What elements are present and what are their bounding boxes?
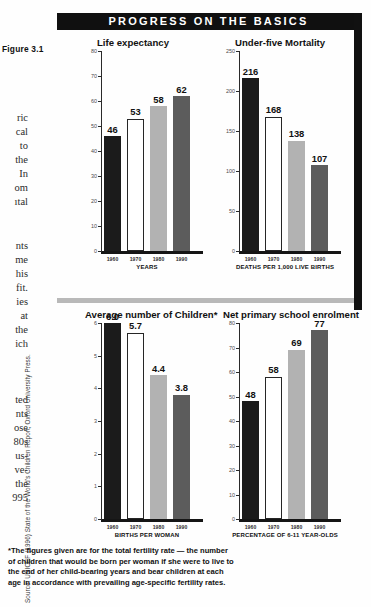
x-axis-category-label: 1990 [176, 256, 188, 262]
bar-1960 [104, 323, 121, 519]
x-axis-baseline [239, 519, 341, 522]
y-axis-tick-label: 50 [229, 208, 235, 214]
y-axis-tick-label: 0 [94, 516, 97, 522]
y-axis-tick-label: 0 [94, 248, 97, 254]
footnote-line: of children that would be born per woman… [8, 557, 298, 568]
figure-label: Figure 3.1 [2, 44, 44, 54]
figure-right-rule [354, 13, 362, 310]
y-axis-tick-label: 1 [94, 483, 97, 489]
y-axis-tick-label: 2 [94, 451, 97, 457]
bar-1970 [127, 333, 144, 519]
y-axis-tick [98, 51, 102, 52]
x-axis-caption: PERCENTAGE OF 6-11 YEAR-OLDS [232, 532, 338, 538]
bar-value-label: 69 [291, 337, 301, 348]
body-text-fragment: fit. [16, 282, 28, 293]
x-axis-category-label: 1990 [314, 524, 326, 530]
y-axis-tick-label: 50 [91, 123, 97, 129]
chart-title: Life expectancy [97, 37, 253, 48]
y-axis-tick [98, 519, 102, 520]
figure-footnote: *The figures given are for the total fer… [8, 546, 298, 588]
body-text-fragment: at [20, 310, 28, 321]
bar-value-label: 77 [314, 318, 324, 329]
y-axis-tick-label: 6 [94, 320, 97, 326]
x-axis-category-label: 1970 [268, 524, 280, 530]
x-axis-category-label: 1970 [268, 256, 280, 262]
y-axis-tick [236, 397, 240, 398]
y-axis-tick [98, 76, 102, 77]
plot-area: 0102030405060708048196058197069198077199… [239, 323, 331, 519]
y-axis-tick [98, 356, 102, 357]
y-axis-tick [236, 470, 240, 471]
y-axis-tick-label: 200 [226, 88, 235, 94]
body-text-fragment: cal [16, 126, 28, 137]
x-axis-caption: BIRTHS PER WOMAN [115, 532, 179, 538]
bar-value-label: 46 [107, 124, 117, 135]
plot-area: 0501001502002502161960168197013819801071… [239, 51, 331, 251]
body-text-fragment: the [15, 324, 28, 335]
y-axis-tick [98, 486, 102, 487]
y-axis-tick [98, 251, 102, 252]
y-axis-tick-label: 0 [232, 516, 235, 522]
bar-1990 [173, 395, 190, 519]
y-axis-tick-label: 10 [229, 492, 235, 498]
y-axis-tick [98, 176, 102, 177]
bar-value-label: 6.0 [106, 311, 119, 322]
bar-1960 [104, 136, 121, 251]
y-axis-tick-label: 40 [229, 418, 235, 424]
y-axis-tick-label: 80 [229, 320, 235, 326]
figure-middle-separator [57, 298, 354, 303]
body-text-fragment: ich [15, 338, 28, 349]
y-axis-tick [236, 251, 240, 252]
y-axis-tick [98, 454, 102, 455]
bar-value-label: 58 [153, 94, 163, 105]
body-text-fragment: In [19, 168, 28, 179]
bar-value-label: 5.7 [129, 320, 142, 331]
y-axis-line [239, 51, 240, 251]
body-text-fragment: to [20, 140, 28, 151]
y-axis-tick [236, 495, 240, 496]
y-axis-tick [236, 51, 240, 52]
x-axis-category-label: 1980 [153, 524, 165, 530]
y-axis-tick-label: 0 [232, 248, 235, 254]
bar-value-label: 168 [266, 104, 282, 115]
y-axis-tick-label: 5 [94, 353, 97, 359]
bar-1980 [288, 141, 305, 251]
bar-value-label: 62 [176, 84, 186, 95]
y-axis-tick-label: 40 [91, 148, 97, 154]
bar-value-label: 53 [130, 106, 140, 117]
bar-value-label: 216 [243, 66, 259, 77]
y-axis-tick [236, 211, 240, 212]
y-axis-tick-label: 250 [226, 48, 235, 54]
bar-value-label: 58 [268, 364, 278, 375]
body-text-fragment: ies [16, 296, 28, 307]
chart-title: Under-five Mortality [235, 37, 371, 48]
x-axis-category-label: 1990 [314, 256, 326, 262]
x-axis-caption: YEARS [136, 264, 157, 270]
bar-1990 [311, 165, 328, 251]
x-axis-category-label: 1970 [130, 256, 142, 262]
y-axis-tick-label: 4 [94, 385, 97, 391]
bar-value-label: 107 [312, 153, 328, 164]
y-axis-tick-label: 150 [226, 128, 235, 134]
bar-1990 [173, 96, 190, 251]
bar-1980 [150, 106, 167, 251]
footnote-line: age in accordance with prevailing age-sp… [8, 578, 298, 589]
footnote-line: *The figures given are for the total fer… [8, 546, 298, 557]
y-axis-tick [98, 388, 102, 389]
y-axis-tick [98, 151, 102, 152]
y-axis-tick [236, 91, 240, 92]
y-axis-tick-label: 10 [91, 223, 97, 229]
x-axis-category-label: 1990 [176, 524, 188, 530]
y-axis-tick-label: 70 [229, 345, 235, 351]
x-axis-baseline [239, 251, 341, 254]
chart-title: Net primary school enrolment [223, 309, 371, 320]
y-axis-tick-label: 30 [229, 443, 235, 449]
bar-value-label: 48 [245, 389, 255, 400]
y-axis-tick [236, 171, 240, 172]
figure-panel: PROGRESS ON THE BASICS Life expectancy01… [57, 13, 365, 601]
x-axis-category-label: 1960 [245, 256, 257, 262]
bar-value-label: 138 [289, 128, 305, 139]
y-axis-tick [98, 421, 102, 422]
body-text-fragment: the [15, 154, 28, 165]
y-axis-tick-label: 20 [91, 198, 97, 204]
